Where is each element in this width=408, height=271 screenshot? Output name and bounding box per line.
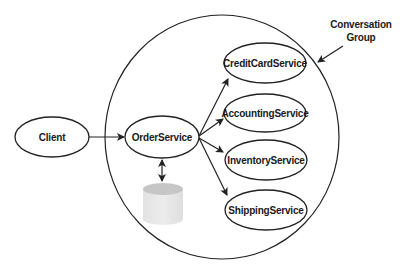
database-icon <box>143 183 183 225</box>
node-shipping-service[interactable]: ShippingService <box>225 190 307 230</box>
conversation-group-label-line2: Group <box>347 32 376 43</box>
node-accounting-service-label: AccountingService <box>221 108 309 119</box>
node-creditcard-service[interactable]: CreditCardService <box>223 43 307 83</box>
node-client-label: Client <box>39 132 66 143</box>
node-accounting-service[interactable]: AccountingService <box>221 94 309 132</box>
conversation-group-label-line1: Conversation <box>330 19 392 30</box>
node-inventory-service-label: InventoryService <box>227 155 305 166</box>
edge-order-to-accounting <box>199 119 223 136</box>
node-shipping-service-label: ShippingService <box>228 205 304 216</box>
diagram-canvas: Conversation Group Client OrderService C… <box>0 0 408 271</box>
conversation-group-label: Conversation Group <box>330 19 392 43</box>
node-inventory-service[interactable]: InventoryService <box>225 140 307 180</box>
node-client[interactable]: Client <box>15 117 89 157</box>
node-order-service[interactable]: OrderService <box>125 116 199 158</box>
conversation-group-pointer-arrow <box>318 46 343 62</box>
node-creditcard-service-label: CreditCardService <box>223 58 307 69</box>
node-order-service-label: OrderService <box>132 132 193 143</box>
